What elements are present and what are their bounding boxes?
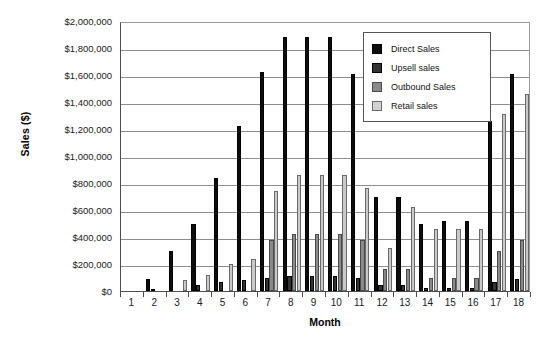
legend-swatch-icon xyxy=(372,63,382,73)
bar xyxy=(429,278,433,292)
bar-group xyxy=(169,23,188,291)
bar xyxy=(287,276,291,291)
bar xyxy=(242,280,246,291)
legend-item: Outbound Sales xyxy=(372,77,486,96)
x-axis-tick-labels: 123456789101112131415161718 xyxy=(120,297,530,313)
bar xyxy=(374,197,378,292)
y-axis-tick-labels: $2,000,000$1,800,000$1,600,000$1,400,000… xyxy=(36,22,116,292)
x-axis-tick-label: 15 xyxy=(445,297,456,309)
bar-group xyxy=(328,23,347,291)
bar xyxy=(283,37,287,291)
x-axis-tick-label: 5 xyxy=(220,297,226,309)
bar xyxy=(351,74,355,291)
bar xyxy=(378,285,382,291)
legend-swatch-icon xyxy=(372,44,382,54)
bar xyxy=(260,72,264,291)
y-axis-tick-label: $1,400,000 xyxy=(64,98,112,108)
bar xyxy=(237,126,241,291)
bar xyxy=(328,37,332,291)
bar xyxy=(297,175,301,291)
legend-label: Retail sales xyxy=(391,101,438,111)
bar xyxy=(356,278,360,292)
bar xyxy=(342,175,346,291)
bar xyxy=(447,288,451,291)
bar xyxy=(497,251,501,292)
sales-bar-chart: Sales ($) $2,000,000$1,800,000$1,600,000… xyxy=(0,0,558,347)
bar xyxy=(411,207,415,291)
bar xyxy=(465,221,469,291)
y-axis-tick-label: $600,000 xyxy=(72,206,112,216)
bar xyxy=(333,276,337,291)
bar-group xyxy=(191,23,210,291)
bar xyxy=(470,288,474,291)
bar-group xyxy=(283,23,302,291)
y-axis-title: Sales ($) xyxy=(19,74,31,194)
y-axis-tick-label: $1,000,000 xyxy=(64,152,112,162)
bar-group xyxy=(305,23,324,291)
y-axis-tick-label: $200,000 xyxy=(72,260,112,270)
bar xyxy=(452,278,456,292)
bar xyxy=(146,279,150,291)
x-axis-tick-label: 11 xyxy=(354,297,364,309)
bar xyxy=(151,289,155,291)
bar-group xyxy=(510,23,529,291)
bar-group xyxy=(237,23,256,291)
bar xyxy=(434,229,438,291)
legend-swatch-icon xyxy=(372,82,382,92)
bar xyxy=(338,234,342,291)
x-axis-title: Month xyxy=(120,316,530,328)
x-axis-tick xyxy=(530,292,531,297)
bar xyxy=(419,224,423,292)
bar xyxy=(269,240,273,291)
x-axis-tick-label: 17 xyxy=(490,297,501,309)
x-axis-tick-label: 14 xyxy=(422,297,433,309)
bar xyxy=(360,240,364,291)
bar xyxy=(169,251,173,292)
bar-group xyxy=(214,23,233,291)
bar xyxy=(520,240,524,291)
x-axis-tick-label: 3 xyxy=(174,297,180,309)
y-axis-tick-label: $2,000,000 xyxy=(64,17,112,27)
legend-item: Direct Sales xyxy=(372,39,486,58)
y-axis-tick-label: $0 xyxy=(101,287,112,297)
legend-item: Retail sales xyxy=(372,96,486,115)
y-axis-tick-label: $1,200,000 xyxy=(64,125,112,135)
legend-item: Upsell sales xyxy=(372,58,486,77)
bar xyxy=(442,221,446,291)
bar xyxy=(525,94,529,291)
bar xyxy=(479,229,483,291)
x-axis-tick-label: 12 xyxy=(376,297,387,309)
legend-swatch-icon xyxy=(372,101,382,111)
x-axis-tick-label: 18 xyxy=(513,297,524,309)
bar xyxy=(401,285,405,291)
bar xyxy=(320,175,324,291)
bar-group xyxy=(260,23,279,291)
bar xyxy=(315,234,319,291)
bar xyxy=(310,276,314,291)
legend-label: Direct Sales xyxy=(391,44,440,54)
y-axis-tick-label: $800,000 xyxy=(72,179,112,189)
bar xyxy=(383,269,387,291)
bar-group xyxy=(146,23,165,291)
bar xyxy=(206,275,210,291)
bar xyxy=(365,188,369,291)
bar xyxy=(396,197,400,292)
x-axis-tick-label: 7 xyxy=(265,297,271,309)
bar xyxy=(219,282,223,291)
y-axis-tick-label: $1,600,000 xyxy=(64,71,112,81)
x-axis-tick-label: 6 xyxy=(242,297,248,309)
x-axis-tick-label: 8 xyxy=(288,297,294,309)
bar xyxy=(251,259,255,291)
bar xyxy=(424,288,428,291)
x-axis-tick-label: 9 xyxy=(311,297,317,309)
bar xyxy=(196,285,200,291)
bar xyxy=(510,74,514,291)
bar xyxy=(502,114,506,291)
bar xyxy=(229,264,233,291)
y-axis-tick-label: $1,800,000 xyxy=(64,44,112,54)
x-axis-tick-label: 10 xyxy=(331,297,342,309)
bar xyxy=(214,178,218,291)
x-axis-tick-label: 4 xyxy=(197,297,203,309)
bar xyxy=(406,269,410,291)
x-axis-tick-label: 13 xyxy=(399,297,410,309)
